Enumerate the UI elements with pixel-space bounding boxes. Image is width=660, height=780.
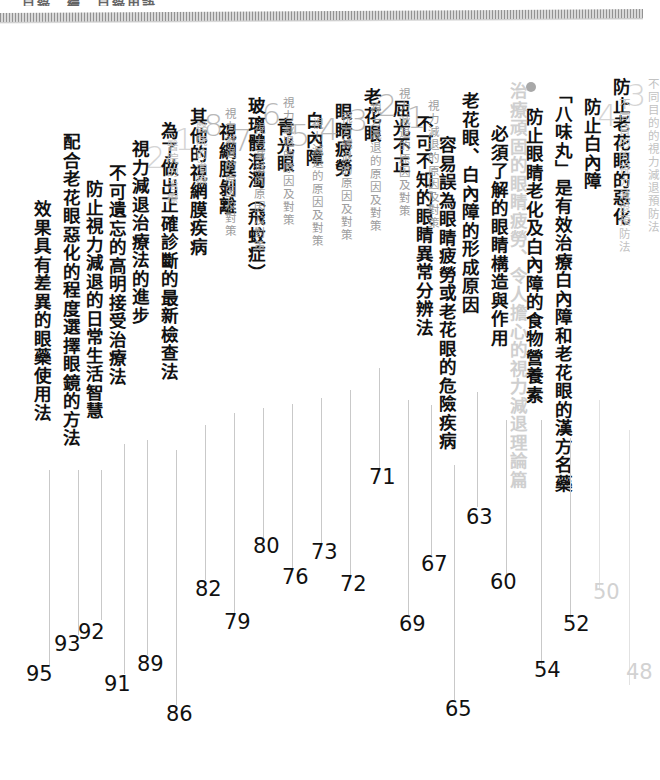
page-number: 48	[626, 660, 653, 684]
toc-entry-kicker: 視力減退的原因及對策	[397, 88, 409, 368]
toc-entry[interactable]: 「八味丸」是有效治療白內障和老花眼的漢方名藥	[553, 86, 571, 416]
toc-entry-title: 防止視力減退的日常生活智慧	[84, 180, 102, 470]
leader-line	[570, 438, 571, 618]
page-number: 54	[534, 658, 561, 682]
toc-entry[interactable]: 防止視力減退的日常生活智慧	[84, 180, 102, 470]
toc-entry-kicker: 視力減退的原因及對策	[252, 123, 264, 413]
leader-line	[124, 444, 125, 674]
page-number: 50	[593, 580, 620, 604]
toc-entry-kicker: 視力減退的原因及對策	[426, 100, 438, 400]
leader-line	[431, 405, 432, 555]
decorative-rule-band	[0, 9, 643, 22]
toc-entry-kicker: 視力減退的原因及對策	[223, 108, 235, 423]
leader-line	[408, 400, 409, 615]
toc-entry-kicker: 視力減退的原因及對策	[310, 118, 322, 403]
leader-line	[454, 465, 455, 700]
page-number: 76	[282, 565, 309, 589]
page-number: 86	[166, 702, 193, 726]
leader-line	[101, 470, 102, 620]
leader-line	[234, 413, 235, 613]
leader-line	[49, 470, 50, 665]
leader-line	[599, 400, 600, 590]
page-number: 92	[78, 620, 105, 644]
toc-entry-kicker: 不同目的的視力減退預防法	[617, 98, 629, 438]
toc-entry-kicker: 視力減退的原因及對策	[281, 97, 293, 407]
page-number: 72	[340, 572, 367, 596]
toc-entry[interactable]: 不同目的的視力減退預防法 4 防止白內障	[582, 98, 629, 438]
leader-line	[506, 420, 507, 575]
toc-entry-title: 老花眼、白內障的形成原因	[460, 92, 478, 392]
cropped-header-text: 目錄 續 目錄用語	[22, 0, 192, 6]
toc-entry-kicker: 視力減退的原因及對策	[368, 103, 380, 388]
toc-entry[interactable]: 醫院的治療 2 視力減退治療法的進步	[130, 140, 177, 440]
leader-line	[350, 390, 351, 575]
toc-entry[interactable]: 配合老花眼惡化的程度選擇眼鏡的方法	[61, 133, 79, 468]
page-number: 91	[104, 672, 131, 696]
page-number: 60	[490, 570, 517, 594]
toc-entry-kicker: 醫院的治療	[194, 122, 206, 447]
leader-line	[541, 420, 542, 665]
toc-entry[interactable]: 老花眼、白內障的形成原因	[460, 92, 478, 392]
leader-line	[321, 398, 322, 543]
page-number: 63	[466, 505, 493, 529]
page-number: 82	[195, 577, 222, 601]
leader-line	[629, 430, 630, 685]
leader-line	[205, 425, 206, 580]
toc-entry-kicker: 視力減退的原因及對策	[339, 112, 351, 397]
leader-line	[176, 450, 177, 705]
leader-line	[292, 404, 293, 569]
toc-entry[interactable]: 效果具有差異的眼藥使用法	[32, 200, 50, 470]
toc-entry-title: 效果具有差異的眼藥使用法	[32, 200, 50, 470]
toc-entry-title: 治療頑固的眼睛疲勞、令人擔心的視力減退理論篇	[508, 82, 526, 427]
toc-entry-title: 視力減退治療法的進步	[130, 140, 148, 440]
page-number: 95	[26, 662, 53, 686]
page-number: 79	[224, 610, 251, 634]
leader-line	[78, 470, 79, 635]
toc-entry-kicker: 不同目的的視力減退預防法	[646, 78, 658, 428]
toc-entry[interactable]: 不可遺忘的高明接受治療法	[107, 164, 125, 444]
leader-line	[477, 392, 478, 507]
page-number: 52	[563, 612, 590, 636]
page-number: 67	[421, 552, 448, 576]
toc-entry-title: 防止白內障	[582, 98, 600, 438]
toc-entry-title: 配合老花眼惡化的程度選擇眼鏡的方法	[61, 133, 79, 468]
toc-entry[interactable]: 必須了解的眼睛構造與作用	[489, 125, 507, 420]
page-number: 71	[369, 465, 396, 489]
toc-entry-section-header[interactable]: 治療頑固的眼睛疲勞、令人擔心的視力減退理論篇	[508, 82, 536, 427]
toc-entry-title: 必須了解的眼睛構造與作用	[489, 125, 507, 420]
page-number: 69	[399, 612, 426, 636]
page-number: 93	[54, 632, 81, 656]
toc-entry-kicker: 醫院的治療	[165, 140, 177, 440]
page-number: 80	[253, 534, 280, 558]
page-number: 89	[137, 652, 164, 676]
leader-line	[147, 440, 148, 655]
leader-line	[263, 408, 264, 538]
page-number: 65	[445, 697, 472, 721]
toc-entry-title: 「八味丸」是有效治療白內障和老花眼的漢方名藥	[553, 86, 571, 416]
page-number: 73	[311, 540, 338, 564]
toc-entry-title: 不可遺忘的高明接受治療法	[107, 164, 125, 444]
